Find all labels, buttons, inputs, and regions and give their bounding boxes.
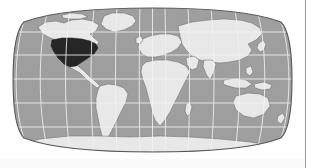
world-map-svg[interactable] [0,0,306,168]
map-panel [0,0,306,168]
bottom-band [0,158,306,168]
right-gutter [306,0,316,168]
screenshot-root [0,0,316,168]
